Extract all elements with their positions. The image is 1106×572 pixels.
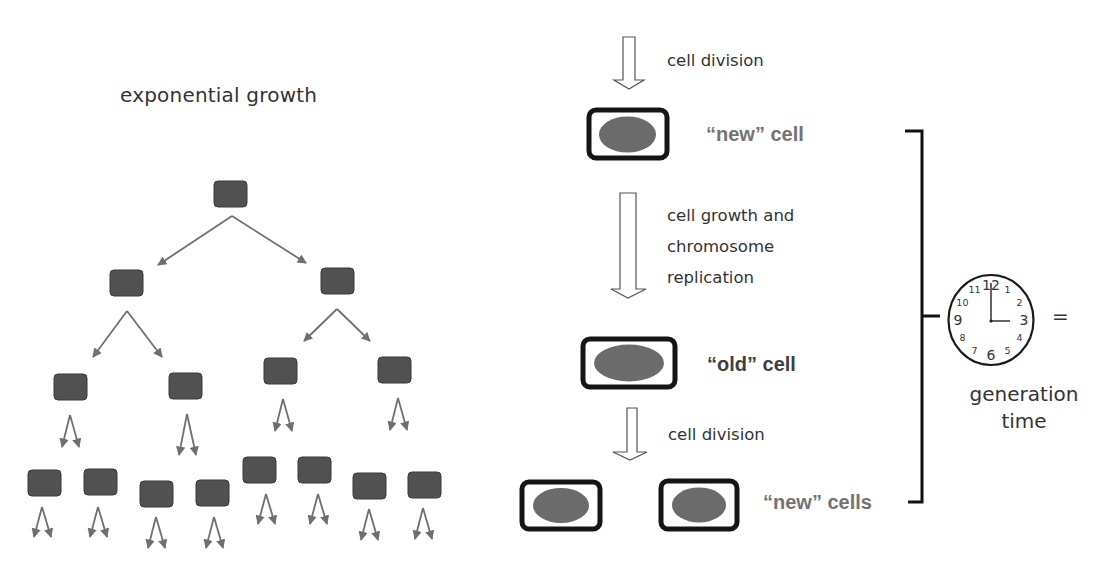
clock-number-2: 2: [1017, 297, 1023, 308]
step-growth-replication: cell growth and chromosome replication: [667, 200, 794, 293]
tree-cell-gen4-1: [28, 470, 61, 496]
step-cell-division-2: cell division: [668, 427, 765, 444]
generation-time-line2: time: [958, 408, 1090, 435]
clock-number-4: 4: [1017, 332, 1023, 343]
clock-number-11: 11: [968, 284, 980, 295]
down-arrow-icon: [611, 193, 646, 298]
clock-number-5: 5: [1004, 345, 1010, 356]
generation-bracket: [905, 131, 940, 502]
clock-number-1: 1: [1004, 284, 1010, 295]
old-cell-icon: [583, 339, 675, 387]
exponential-tree: [28, 181, 441, 548]
clock-number-9: 9: [954, 312, 963, 328]
clock-number-10: 10: [956, 297, 968, 308]
exponential-growth-title: exponential growth: [120, 85, 317, 105]
generation-time-line1: generation: [958, 381, 1090, 408]
branch-arrows-gen1: [158, 216, 306, 265]
tree-cell-gen4-3: [140, 481, 173, 507]
tree-cell-gen4-5: [243, 457, 276, 483]
clock-number-3: 3: [1020, 312, 1029, 328]
step-cell-division-1: cell division: [667, 53, 764, 70]
clock-icon: 121234567891011: [949, 275, 1034, 365]
new-cell-label: “new” cell: [706, 124, 804, 144]
down-arrow-icon: [613, 408, 647, 460]
new-cells-label: “new” cells: [763, 492, 872, 512]
tree-cell-gen4-6: [298, 457, 331, 483]
cell-growth-diagram: 121234567891011 exponential growth cell …: [0, 0, 1106, 572]
down-arrow-icon: [614, 37, 644, 89]
new-cell-icon: [589, 110, 667, 158]
step-line: chromosome: [667, 237, 774, 256]
daughter-cell-right-icon: [661, 481, 737, 529]
tree-cell-gen1-1: [214, 181, 247, 207]
step-line: replication: [667, 268, 754, 287]
tree-cell-gen3-4: [378, 357, 411, 383]
clock-number-7: 7: [971, 345, 977, 356]
tree-cell-gen2-1: [110, 270, 143, 296]
clock-number-8: 8: [959, 332, 965, 343]
clock-number-6: 6: [987, 347, 996, 363]
tree-cell-gen3-2: [169, 373, 202, 399]
generation-time-label: generationtime: [958, 381, 1090, 435]
tree-cell-gen4-7: [353, 473, 386, 499]
tree-cell-gen3-1: [54, 374, 87, 400]
tree-cell-gen4-8: [408, 472, 441, 498]
step-line: cell growth and: [667, 206, 794, 225]
daughter-cell-left-icon: [522, 482, 600, 529]
tree-cell-gen4-4: [196, 480, 229, 506]
tree-cells: [28, 181, 441, 507]
branch-arrows-gen2: [93, 309, 370, 357]
old-cell-label: “old” cell: [707, 354, 796, 374]
tree-cell-gen3-3: [264, 358, 297, 384]
tree-cell-gen2-2: [321, 268, 354, 294]
tree-cell-gen4-2: [84, 469, 117, 495]
equals-sign: =: [1052, 306, 1069, 326]
mini-arrows-gen4: [34, 494, 432, 548]
mini-arrows-gen3: [62, 398, 407, 455]
